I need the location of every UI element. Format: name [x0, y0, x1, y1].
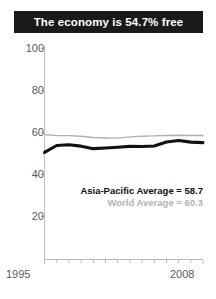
legend-item-asia-pacific-average: Asia-Pacific Average = 58.7	[80, 185, 203, 197]
series-line-asia-pacific-average	[45, 140, 204, 152]
x-tick-label-start: 1995	[6, 268, 30, 280]
y-tick-label-60: 60	[4, 126, 44, 138]
y-tick-label-40: 40	[4, 168, 44, 180]
y-tick-label-80: 80	[4, 84, 44, 96]
chart-legend: Asia-Pacific Average = 58.7 World Averag…	[80, 185, 203, 209]
y-tick-label-20: 20	[4, 210, 44, 222]
x-tick-label-end: 2008	[170, 268, 194, 280]
x-tick-marks	[45, 260, 204, 265]
legend-item-world-average: World Average = 60.3	[80, 197, 203, 209]
line-chart: 100 80 60 40 20 1995 2008 Asia-Pacific A…	[0, 0, 216, 299]
series-line-world-average	[45, 135, 204, 139]
y-tick-label-100: 100	[4, 42, 44, 54]
